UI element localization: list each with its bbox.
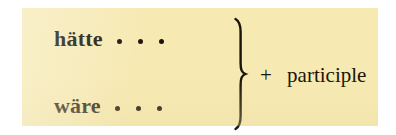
ellipsis-dot [136,106,141,111]
ellipsis-dot [159,39,164,44]
figure-panel: hätte wäre + participle [22,8,378,126]
trailing-expression: + participle [260,63,366,88]
ellipsis-dot [117,39,122,44]
plus-sign: + [260,63,272,87]
right-curly-brace-icon [226,16,252,132]
grammar-row-haette: hätte [54,26,164,52]
participle-label: participle [287,63,366,87]
ellipsis-dot [157,106,162,111]
ellipsis-dots-haette [117,39,164,44]
ellipsis-dot [115,106,120,111]
ellipsis-dot [138,39,143,44]
grammar-figure: hätte wäre + participle [0,0,396,135]
headword-waere: wäre [54,93,101,119]
ellipsis-dots-waere [115,106,162,111]
headword-haette: hätte [54,26,103,52]
grammar-row-waere: wäre [54,93,162,119]
